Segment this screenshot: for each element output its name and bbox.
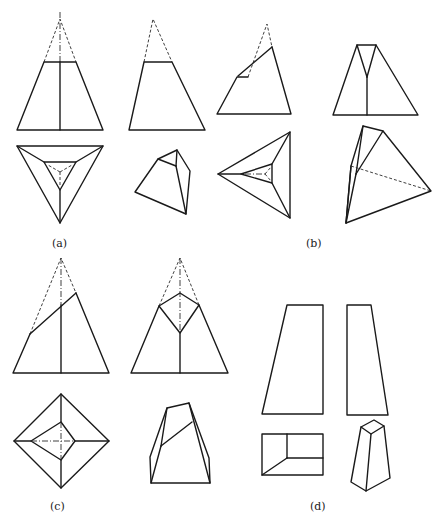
panel-c-front-view: [13, 258, 109, 373]
panel-c-isometric-view: [150, 403, 210, 483]
panel-a: (a): [17, 12, 205, 250]
panel-b-front-view: [217, 24, 291, 114]
panel-a-top-view: [17, 146, 103, 223]
panel-b-side-view: [333, 45, 418, 115]
panel-b-label: (b): [306, 237, 322, 250]
panel-d-front-view: [262, 305, 323, 414]
panel-d-top-view: [262, 434, 323, 475]
panel-c-top-view: [14, 394, 109, 488]
panel-c: (c): [13, 258, 228, 513]
panel-b-top-view: [218, 132, 290, 218]
panel-a-isometric-view: [135, 150, 190, 214]
panel-a-label: (a): [52, 237, 67, 250]
panel-d: (d): [262, 305, 390, 513]
panel-c-side-view: [131, 258, 228, 373]
panel-d-side-view: [347, 305, 388, 415]
panel-b-isometric-view: [346, 126, 431, 223]
panel-b: (b): [217, 24, 431, 250]
panel-d-label: (d): [310, 500, 326, 513]
panel-c-label: (c): [50, 500, 65, 513]
projection-diagram: (a): [0, 0, 437, 526]
panel-a-front-view: [17, 12, 103, 130]
panel-a-side-view: [129, 19, 205, 130]
panel-d-isometric-view: [351, 420, 390, 491]
